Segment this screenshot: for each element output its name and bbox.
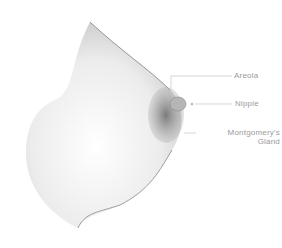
- nipple-dot: [191, 103, 194, 106]
- areola-region: [148, 87, 184, 143]
- label-montgomerys-line2: Gland: [196, 137, 280, 146]
- label-montgomerys-gland: Montgomery's Gland: [196, 128, 280, 146]
- diagram-canvas: Areola Nipple Montgomery's Gland: [0, 0, 282, 248]
- nipple-region: [170, 97, 186, 111]
- areola-leader: [171, 76, 232, 95]
- illustration: [0, 0, 282, 248]
- label-montgomerys-line1: Montgomery's: [196, 128, 280, 137]
- label-areola: Areola: [234, 71, 258, 80]
- label-nipple: Nipple: [235, 99, 259, 108]
